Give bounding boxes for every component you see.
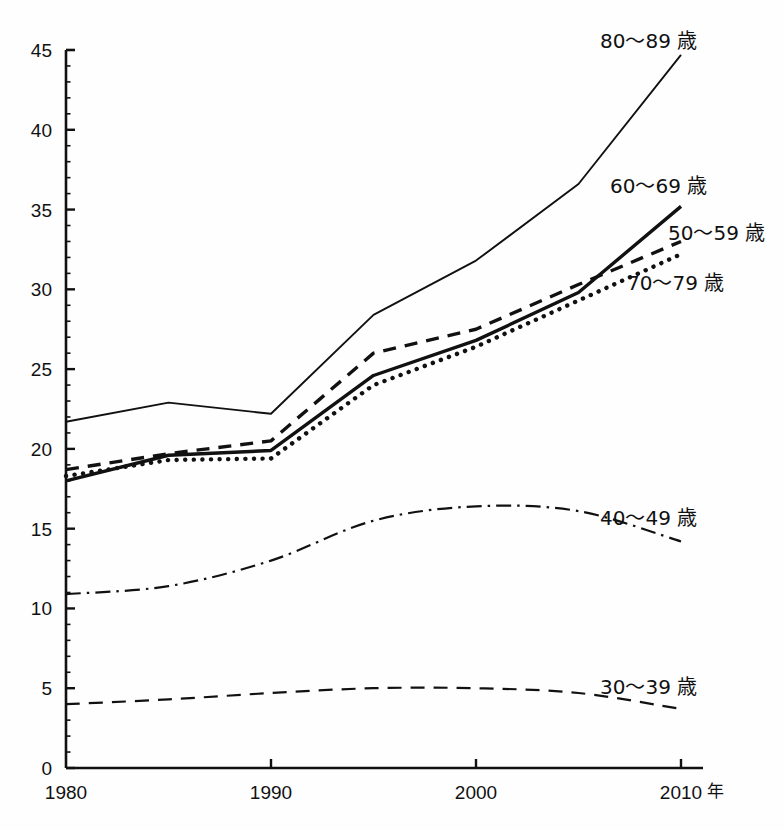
series-label-1: 80〜89 歳	[600, 29, 697, 53]
y-tick-label: 45	[31, 40, 52, 61]
y-tick-label: 30	[31, 279, 52, 300]
x-tick-label: 1980	[45, 782, 87, 803]
series-label-3: 50〜59 歳	[668, 221, 765, 245]
x-tick-label: 2000	[455, 782, 497, 803]
y-tick-label: 35	[31, 200, 52, 221]
x-axis: 1980199020002010年	[45, 759, 724, 803]
series-label-6: 30〜39 歳	[600, 675, 697, 699]
series-line	[66, 241, 681, 469]
y-tick-label: 20	[31, 439, 52, 460]
y-axis: 051015202530354045	[31, 40, 75, 779]
series-line	[66, 254, 681, 476]
series-line	[66, 688, 681, 709]
series-label-4: 70〜79 歳	[627, 271, 724, 295]
y-tick-label: 40	[31, 120, 52, 141]
series-labels: 80〜89 歳60〜69 歳50〜59 歳70〜79 歳40〜49 歳30〜39…	[600, 29, 765, 699]
y-tick-label: 15	[31, 519, 52, 540]
series-lines	[66, 55, 681, 709]
y-tick-label: 0	[41, 758, 52, 779]
x-tick-label: 1990	[250, 782, 292, 803]
series-label-5: 40〜49 歳	[600, 506, 697, 530]
series-line	[66, 506, 681, 595]
line-chart: 051015202530354045 1980199020002010年 80〜…	[0, 0, 784, 830]
y-tick-label: 25	[31, 359, 52, 380]
series-line	[66, 206, 681, 480]
y-tick-label: 5	[41, 678, 52, 699]
series-line	[66, 55, 681, 422]
y-tick-label: 10	[31, 598, 52, 619]
x-tick-label: 2010	[660, 782, 702, 803]
series-label-2: 60〜69 歳	[610, 174, 707, 198]
x-axis-unit-label: 年	[707, 781, 724, 801]
chart-canvas: 051015202530354045 1980199020002010年 80〜…	[0, 0, 784, 830]
